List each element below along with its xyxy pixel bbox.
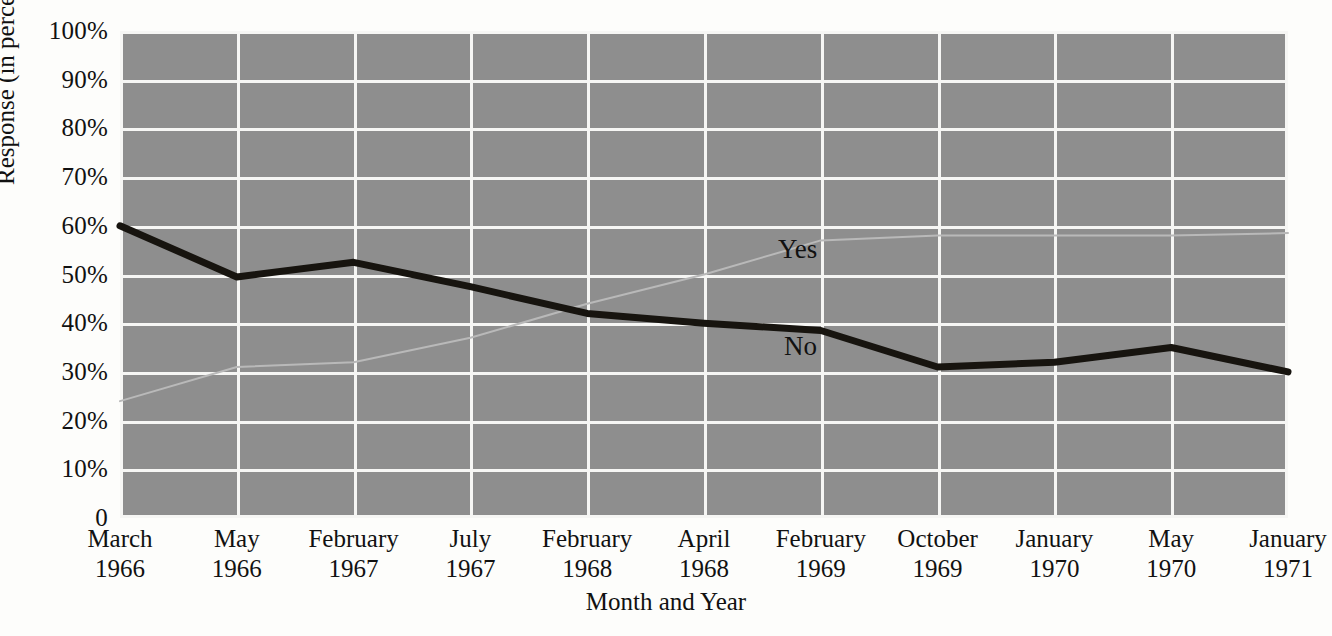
y-axis-tick-label: 90%	[0, 67, 108, 92]
y-axis-tick-label: 100%	[0, 18, 108, 43]
y-axis-tick-label: 30%	[0, 359, 108, 384]
series-label-yes: Yes	[778, 236, 817, 263]
y-axis-tick-label: 50%	[0, 262, 108, 287]
y-axis-tick-label: 70%	[0, 164, 108, 189]
y-axis-tick-label: 80%	[0, 115, 108, 140]
series-line-yes	[120, 233, 1288, 401]
y-axis-tick-label: 10%	[0, 456, 108, 481]
x-axis-tick-label: January1971	[1203, 524, 1332, 584]
series-lines	[120, 31, 1288, 518]
plot-area	[120, 31, 1288, 518]
x-tick-month: January	[1203, 524, 1332, 554]
chart-container: Response (in percent) 100%90%80%70%60%50…	[0, 0, 1332, 636]
y-axis-tick-label: 20%	[0, 408, 108, 433]
series-line-no	[120, 226, 1288, 372]
y-axis-tick-label: 40%	[0, 310, 108, 335]
x-axis-title: Month and Year	[0, 588, 1332, 616]
x-tick-year: 1971	[1203, 554, 1332, 584]
y-axis-tick-label: 60%	[0, 213, 108, 238]
series-label-no: No	[784, 333, 817, 360]
